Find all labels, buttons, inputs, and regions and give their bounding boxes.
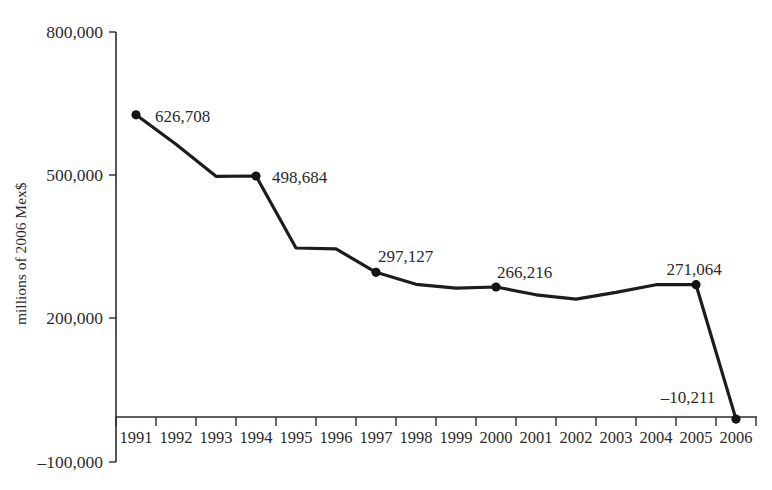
- x-label-1992: 1992: [160, 428, 193, 447]
- line-chart: 800,000 500,000 200,000 –100,000 million…: [0, 0, 772, 490]
- y-tick-label-neg100000: –100,000: [36, 452, 103, 472]
- value-label-2000: 266,216: [497, 263, 552, 282]
- x-label-1995: 1995: [280, 428, 313, 447]
- value-label-1997: 297,127: [378, 247, 434, 266]
- x-label-1997: 1997: [360, 428, 393, 447]
- x-label-2005: 2005: [680, 428, 713, 447]
- x-label-2000: 2000: [480, 428, 513, 447]
- x-label-1998: 1998: [400, 428, 433, 447]
- x-label-1993: 1993: [200, 428, 233, 447]
- y-tick-label-800000: 800,000: [46, 22, 103, 42]
- value-label-2006: –10,211: [660, 388, 716, 407]
- x-label-2001: 2001: [520, 428, 553, 447]
- x-label-2003: 2003: [600, 428, 633, 447]
- data-point-1997: [371, 268, 380, 277]
- data-point-2000: [491, 282, 500, 291]
- x-label-2002: 2002: [560, 428, 593, 447]
- y-axis-title: millions of 2006 Mex$: [12, 182, 29, 325]
- x-label-1994: 1994: [240, 428, 273, 447]
- data-point-2005: [691, 280, 700, 289]
- data-point-1994: [251, 171, 260, 180]
- data-point-1991: [131, 110, 140, 119]
- x-label-2006: 2006: [720, 428, 753, 447]
- value-label-2005: 271,064: [666, 260, 722, 279]
- y-tick-label-500000: 500,000: [46, 165, 103, 185]
- x-label-2004: 2004: [640, 428, 673, 447]
- data-point-2006: [731, 415, 740, 424]
- x-label-1991: 1991: [120, 428, 153, 447]
- chart-svg: 800,000 500,000 200,000 –100,000 million…: [0, 0, 772, 490]
- x-label-1999: 1999: [440, 428, 473, 447]
- data-series-line: [136, 115, 736, 419]
- data-point-markers: [131, 110, 740, 424]
- value-label-1991: 626,708: [155, 107, 210, 126]
- y-tick-label-200000: 200,000: [46, 308, 103, 328]
- x-label-1996: 1996: [320, 428, 353, 447]
- value-label-1994: 498,684: [272, 168, 328, 187]
